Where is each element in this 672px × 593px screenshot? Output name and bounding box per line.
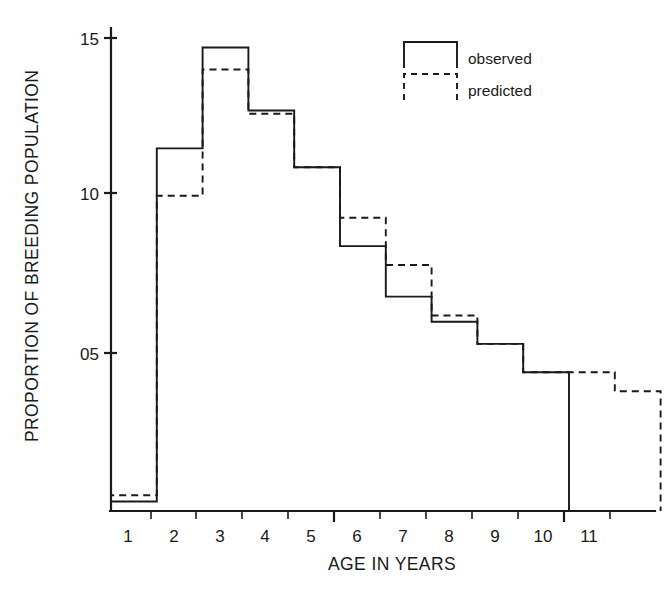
x-tick-label-5: 5: [306, 527, 315, 546]
legend-label-observed: observed: [468, 50, 532, 67]
x-tick-label-10: 10: [534, 527, 553, 546]
y-axis-title: PROPORTION OF BREEDING POPULATION: [22, 70, 42, 442]
step-histogram-figure: 15 10 05 1 2 3 4 5 6 7 8 9 10 11 PROPORT…: [0, 0, 672, 593]
x-tick-label-3: 3: [215, 527, 224, 546]
x-tick-label-11: 11: [580, 527, 598, 546]
y-tick-label-10: 10: [80, 185, 99, 204]
x-tick-label-8: 8: [444, 527, 453, 546]
legend-swatch-observed: [404, 42, 457, 68]
legend: observed predicted: [404, 42, 532, 100]
series-observed-path: [111, 48, 569, 512]
x-tick-label-2: 2: [169, 527, 178, 546]
x-tick-label-6: 6: [352, 527, 361, 546]
axes-group: [110, 28, 655, 511]
x-axis-ticks: [151, 511, 610, 522]
x-tick-label-9: 9: [490, 527, 499, 546]
x-tick-label-1: 1: [123, 527, 132, 546]
y-tick-label-15: 15: [80, 30, 99, 49]
x-tick-label-4: 4: [260, 527, 269, 546]
x-tick-label-7: 7: [398, 527, 407, 546]
x-axis-tick-labels: 1 2 3 4 5 6 7 8 9 10 11: [123, 527, 598, 546]
legend-swatch-predicted: [404, 74, 457, 100]
y-tick-label-05: 05: [80, 345, 99, 364]
legend-label-predicted: predicted: [468, 82, 532, 99]
x-axis-title: AGE IN YEARS: [328, 554, 456, 574]
